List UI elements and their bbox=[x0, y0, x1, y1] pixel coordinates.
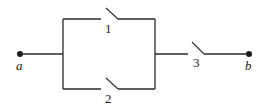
switch-3-label: 3 bbox=[193, 55, 200, 70]
switch-1-label: 1 bbox=[105, 21, 112, 36]
switch-1-blade bbox=[106, 8, 118, 19]
terminal-a-label: a bbox=[16, 58, 23, 73]
switch-2-label: 2 bbox=[105, 91, 112, 105]
switch-3-blade bbox=[192, 42, 204, 54]
terminal-b-node bbox=[246, 51, 252, 57]
switch-2-blade bbox=[106, 78, 118, 89]
circuit-diagram: a 1 2 3 b bbox=[0, 0, 265, 105]
terminal-b-label: b bbox=[245, 58, 252, 73]
